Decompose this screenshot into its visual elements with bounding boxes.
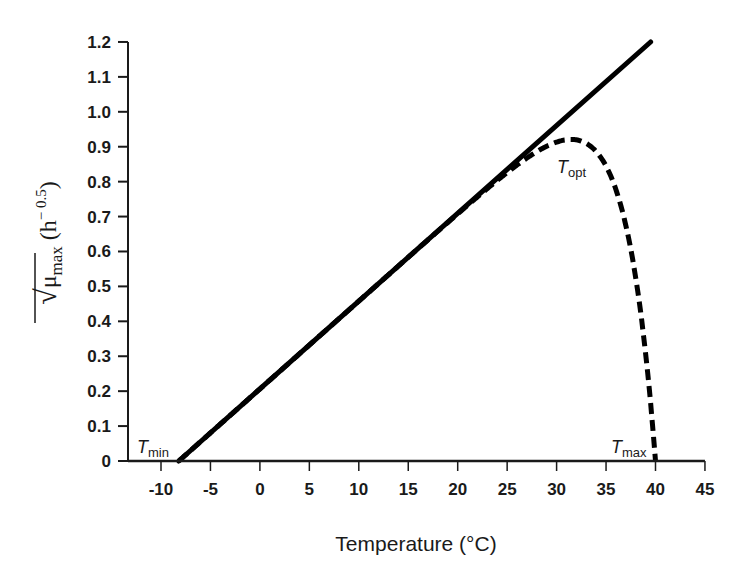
x-tick-label: 25: [498, 480, 517, 499]
y-tick-label: 1.1: [87, 68, 111, 87]
y-axis-title-unit: (h: [35, 220, 61, 246]
y-tick-label: 0.9: [87, 138, 111, 157]
y-ticks: 00.10.20.30.40.50.60.70.80.91.01.11.2: [87, 33, 128, 471]
x-axis-title: Temperature (°C): [335, 532, 496, 555]
x-tick-label: 20: [448, 480, 467, 499]
x-tick-label: -5: [203, 480, 218, 499]
x-tick-label: 45: [695, 480, 714, 499]
x-tick-label: 10: [349, 480, 368, 499]
y-axis-title-subscript: max: [47, 246, 66, 276]
annotation-topt: Topt: [557, 157, 586, 180]
y-axis-title-symbol: μ: [35, 275, 61, 288]
plot-series: [179, 42, 656, 461]
y-tick-label: 0.8: [87, 173, 111, 192]
x-tick-label: 40: [646, 480, 665, 499]
x-tick-label: 15: [399, 480, 418, 499]
x-tick-label: -10: [149, 480, 174, 499]
x-ticks: -10-5051015202530354045: [149, 461, 715, 499]
y-tick-label: 0.3: [87, 347, 111, 366]
y-tick-label: 0.7: [87, 208, 111, 227]
dashed-curve: [179, 139, 656, 461]
y-tick-label: 0.5: [87, 277, 111, 296]
y-axis-title-sqrt: √: [29, 288, 62, 305]
y-axis-title: √μmax (h− 0.5): [29, 181, 66, 323]
x-tick-label: 30: [547, 480, 566, 499]
y-axis-title-exponent: − 0.5: [33, 189, 49, 220]
y-axis-title-close: ): [35, 181, 61, 189]
chart-canvas: 00.10.20.30.40.50.60.70.80.91.01.11.2 -1…: [0, 0, 743, 583]
y-tick-label: 0.4: [87, 312, 111, 331]
x-tick-label: 5: [305, 480, 314, 499]
annotation-tmax: Tmax: [611, 437, 647, 460]
annotations: TminToptTmax: [137, 157, 647, 460]
y-tick-label: 0.1: [87, 417, 111, 436]
y-tick-label: 0: [102, 452, 111, 471]
y-tick-label: 1.2: [87, 33, 111, 52]
y-tick-label: 0.2: [87, 382, 111, 401]
x-tick-label: 0: [255, 480, 264, 499]
y-tick-label: 0.6: [87, 242, 111, 261]
y-tick-label: 1.0: [87, 103, 111, 122]
annotation-tmin: Tmin: [137, 437, 169, 460]
x-tick-label: 35: [597, 480, 616, 499]
